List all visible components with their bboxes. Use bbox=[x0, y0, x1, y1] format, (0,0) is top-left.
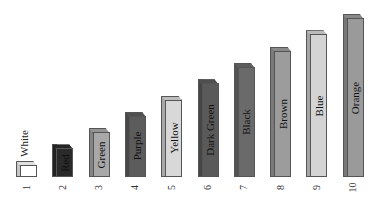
bar-8: Brown bbox=[270, 47, 291, 177]
x-tick-label: 10 bbox=[347, 183, 358, 193]
x-tick-label: 8 bbox=[275, 185, 286, 190]
bar-label: Black bbox=[240, 109, 252, 135]
bar-label: Green bbox=[95, 141, 107, 168]
bar-4: Purple bbox=[125, 112, 146, 177]
x-tick-label: 3 bbox=[93, 185, 104, 190]
bar-label: Purple bbox=[131, 132, 143, 161]
x-tick-label: 5 bbox=[166, 185, 177, 190]
bar-9: Blue bbox=[306, 30, 327, 177]
bar-label: Red bbox=[59, 154, 71, 172]
bar-label: White bbox=[18, 130, 30, 157]
bar-label: Yellow bbox=[168, 123, 180, 154]
x-tick-label: 1 bbox=[21, 185, 32, 190]
bar-label: Orange bbox=[349, 81, 361, 113]
x-tick-label: 9 bbox=[311, 185, 322, 190]
bar-2: Red bbox=[52, 144, 73, 177]
bar-6: Dark Green bbox=[198, 79, 219, 177]
bar-1 bbox=[16, 161, 37, 177]
x-tick-label: 6 bbox=[202, 185, 213, 190]
bar-label: Dark Green bbox=[204, 104, 216, 156]
bar-label: Brown bbox=[277, 99, 289, 129]
bar-chart: White1Red2Green3Purple4Yellow5Dark Green… bbox=[0, 0, 384, 204]
x-tick-label: 2 bbox=[57, 185, 68, 190]
bar-front bbox=[20, 165, 37, 177]
bar-label: Blue bbox=[313, 95, 325, 116]
x-tick-label: 4 bbox=[129, 185, 140, 190]
bar-3: Green bbox=[89, 128, 110, 177]
bar-10: Orange bbox=[343, 14, 364, 177]
bar-5: Yellow bbox=[161, 96, 182, 178]
bar-7: Black bbox=[234, 63, 255, 177]
x-tick-label: 7 bbox=[238, 185, 249, 190]
